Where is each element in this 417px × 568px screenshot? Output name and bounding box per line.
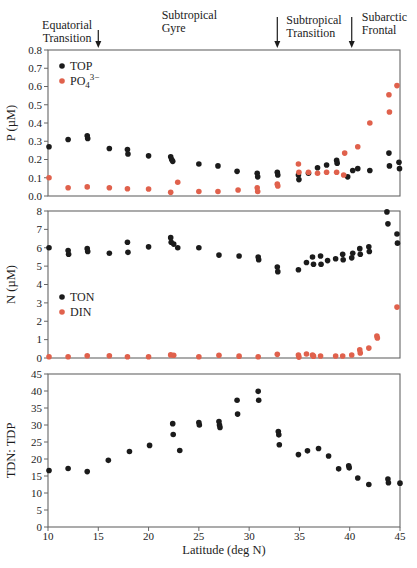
panel-nitrogen: 012345678N (µM)TONDIN: [4, 205, 400, 364]
data-point: [311, 261, 317, 267]
data-point: [315, 165, 321, 171]
data-point: [125, 186, 131, 192]
data-point: [84, 469, 90, 475]
y-tick-label: 0.4: [28, 117, 42, 129]
x-tick-label: 25: [193, 530, 205, 542]
data-point: [375, 335, 381, 341]
data-point: [366, 345, 372, 351]
data-point: [334, 169, 340, 175]
data-point: [296, 354, 302, 360]
data-point: [84, 353, 90, 359]
data-point: [318, 353, 324, 359]
y-tick-label: 0.5: [28, 99, 42, 111]
data-point: [277, 442, 283, 448]
data-point: [333, 256, 339, 262]
data-point: [125, 239, 131, 245]
data-point: [125, 354, 131, 360]
region-annotation-label: Transition: [286, 26, 335, 40]
region-annotation-label: Subtropical: [162, 8, 218, 22]
region-annotation: SubarcticFrontal: [349, 10, 407, 48]
legend: TOPPO43−: [59, 59, 99, 90]
series-top: [46, 133, 402, 182]
data-point: [235, 411, 241, 417]
data-point: [196, 354, 202, 360]
data-point: [236, 353, 242, 359]
data-point: [305, 448, 311, 454]
y-tick-label: 5: [37, 260, 43, 272]
data-point: [217, 425, 223, 431]
y-tick-label: 15: [31, 470, 43, 482]
data-point: [296, 169, 302, 175]
y-tick-label: 8: [37, 205, 43, 217]
region-annotation-label: Equatorial: [42, 18, 93, 32]
region-annotation-label: Gyre: [162, 21, 186, 35]
data-point: [46, 468, 52, 474]
data-point: [215, 163, 221, 169]
data-point: [255, 174, 261, 180]
data-point: [65, 137, 71, 143]
data-point: [318, 261, 324, 267]
data-point: [304, 260, 310, 266]
data-point: [395, 240, 401, 246]
data-point: [170, 159, 176, 165]
data-point: [386, 150, 392, 156]
data-point: [216, 352, 222, 358]
x-tick-label: 30: [244, 530, 256, 542]
data-point: [275, 269, 281, 275]
series-tdn-tdp: [46, 389, 403, 488]
data-point: [85, 249, 91, 255]
chart-svg: 0.00.10.20.30.40.50.60.70.8P (µM)TOPPO43…: [0, 0, 417, 568]
data-point: [350, 250, 356, 256]
data-point: [65, 185, 71, 191]
legend-marker-icon: [59, 294, 65, 300]
data-point: [310, 254, 316, 260]
data-point: [355, 166, 361, 172]
data-point: [340, 257, 346, 263]
x-tick-label: 35: [294, 530, 306, 542]
y-tick-label: 35: [31, 402, 43, 414]
data-point: [357, 246, 363, 252]
data-point: [146, 354, 152, 360]
data-point: [304, 351, 310, 357]
data-point: [171, 352, 177, 358]
data-point: [275, 352, 281, 358]
data-point: [255, 389, 261, 395]
data-point: [234, 397, 240, 403]
data-point: [85, 136, 91, 142]
y-tick-label: 0.6: [28, 80, 42, 92]
data-point: [387, 163, 393, 169]
data-point: [394, 83, 400, 89]
data-point: [341, 172, 347, 178]
region-annotation-label: Frontal: [362, 23, 397, 37]
data-point: [107, 250, 113, 256]
y-tick-label: 0.1: [28, 172, 42, 184]
data-point: [196, 161, 202, 167]
data-point: [66, 251, 72, 257]
legend-marker-icon: [59, 63, 65, 69]
data-point: [107, 146, 113, 152]
data-point: [333, 353, 339, 359]
plot-frame: [48, 374, 400, 527]
data-point: [216, 252, 222, 258]
y-tick-label: 0.0: [28, 190, 42, 202]
data-point: [306, 169, 312, 175]
x-axis-title: Latitude (deg N): [182, 543, 265, 557]
y-axis-title: TDN: TDP: [4, 423, 18, 479]
data-point: [349, 255, 355, 261]
data-point: [340, 353, 346, 359]
data-point: [397, 166, 403, 172]
y-tick-label: 1: [37, 333, 43, 345]
data-point: [326, 453, 332, 459]
data-point: [296, 161, 302, 167]
data-point: [107, 185, 113, 191]
data-point: [311, 353, 317, 359]
data-point: [296, 452, 302, 458]
data-point: [256, 397, 262, 403]
data-point: [256, 257, 262, 263]
data-point: [385, 221, 391, 227]
data-point: [106, 458, 112, 464]
y-tick-label: 3: [37, 297, 43, 309]
data-point: [235, 187, 241, 193]
data-point: [355, 475, 361, 481]
panel-tdn-tdp-ratio: 051015202530354045TDN: TDP10152025303540…: [4, 368, 406, 557]
